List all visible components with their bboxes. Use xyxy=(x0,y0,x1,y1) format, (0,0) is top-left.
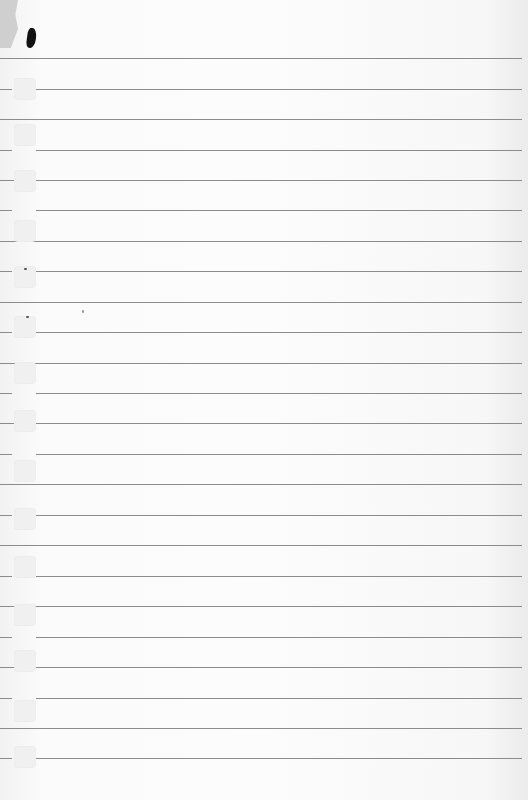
ruled-line xyxy=(0,271,522,272)
torn-corner xyxy=(0,0,18,48)
ruled-line xyxy=(0,484,522,485)
ink-mark xyxy=(26,27,38,48)
ruled-line xyxy=(0,393,522,394)
ruled-line xyxy=(0,576,522,577)
ruled-line xyxy=(0,332,522,333)
ruled-line xyxy=(0,606,522,607)
punch-hole xyxy=(14,362,36,384)
punch-hole xyxy=(14,460,36,482)
ruled-line xyxy=(0,637,522,638)
notebook-paper xyxy=(0,0,528,800)
ink-speck xyxy=(24,268,27,270)
ruled-line xyxy=(0,363,522,364)
ruled-line xyxy=(0,545,522,546)
punch-hole xyxy=(14,650,36,672)
ruled-line xyxy=(0,302,522,303)
ruled-line xyxy=(0,150,522,151)
punch-hole xyxy=(14,78,36,100)
paper-speck xyxy=(82,310,84,313)
punch-hole xyxy=(14,410,36,432)
punch-hole xyxy=(14,604,36,626)
punch-hole xyxy=(14,556,36,578)
punch-hole xyxy=(14,170,36,192)
punch-hole xyxy=(14,316,36,338)
ruled-line xyxy=(0,119,522,120)
ruled-line xyxy=(0,58,522,59)
ruled-line xyxy=(0,454,522,455)
ruled-line xyxy=(0,758,522,759)
ruled-line xyxy=(0,180,522,181)
ruled-line xyxy=(0,423,522,424)
ruled-line xyxy=(0,210,522,211)
punch-hole xyxy=(14,746,36,768)
ruled-line xyxy=(0,667,522,668)
ruled-line xyxy=(0,89,522,90)
punch-hole xyxy=(14,124,36,146)
ruled-line xyxy=(0,515,522,516)
ruled-line xyxy=(0,728,522,729)
punch-hole xyxy=(14,508,36,530)
punch-hole xyxy=(14,700,36,722)
punch-hole xyxy=(14,220,36,242)
ink-speck xyxy=(26,316,29,318)
ruled-line xyxy=(0,698,522,699)
ruled-line xyxy=(0,241,522,242)
